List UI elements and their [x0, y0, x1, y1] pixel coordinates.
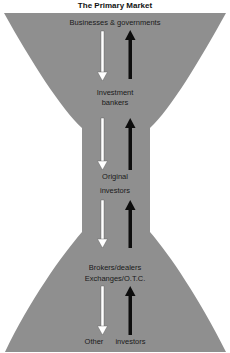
node-other-line1: Other — [85, 337, 104, 347]
node-secondary-line1: Brokers/dealers — [0, 263, 230, 273]
node-other-line2: investors — [115, 337, 145, 347]
node-underwriters-line1: Investment — [0, 88, 230, 98]
node-original-line2: investors — [0, 186, 230, 196]
node-issuers: Businesses & governments — [0, 18, 230, 28]
node-other-investors: Other investors — [0, 337, 230, 347]
node-secondary-line2: Exchanges/O.T.C. — [0, 274, 230, 284]
funnel-body — [4, 13, 226, 352]
node-underwriters-line2: bankers — [0, 98, 230, 108]
node-original-line1: Original — [0, 172, 230, 182]
